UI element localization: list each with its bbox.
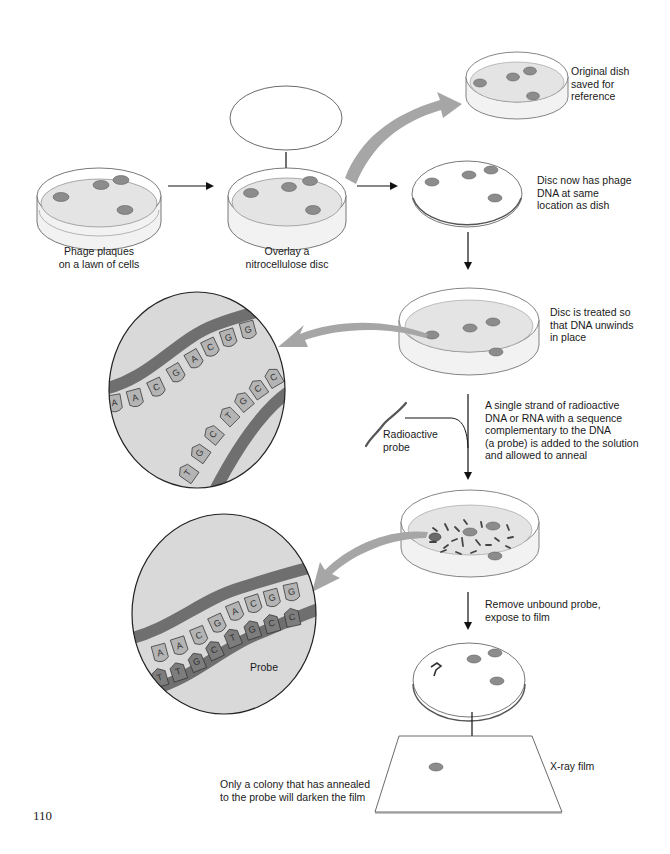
label-probe-added: A single strand of radioactive DNA or RN…	[485, 399, 639, 462]
label-disc-copy: Disc now has phage DNA at same location …	[537, 174, 632, 212]
label-overlay-disc: Overlay a nitrocellulose disc	[232, 245, 342, 270]
petri-dish-overlay	[228, 168, 346, 250]
probe-label: Probe	[250, 661, 278, 673]
magnifier-annealed-probe: AACGACGG TTGCTGCC Probe	[125, 514, 330, 714]
petri-dish-original	[466, 52, 568, 119]
disc-after-wash	[413, 643, 525, 721]
label-radioactive-probe: Radioactive probe	[383, 428, 438, 453]
label-xray-film: X-ray film	[550, 760, 594, 773]
magnifier-unwound-dna: AACGACGG TGCTGCC	[100, 292, 300, 500]
label-remove-unbound: Remove unbound probe, expose to film	[485, 598, 601, 623]
label-result: Only a colony that has annealed to the p…	[220, 778, 370, 803]
page-number: 110	[33, 808, 52, 824]
nitrocellulose-disc	[230, 86, 342, 150]
disc-with-phage-dna	[412, 161, 522, 227]
label-phage-plaques: Phage plaques on a lawn of cells	[52, 245, 146, 270]
label-disc-treated: Disc is treated so that DNA unwinds in p…	[550, 306, 633, 344]
label-original-dish: Original dish saved for reference	[571, 65, 629, 103]
xray-film	[375, 736, 562, 813]
petri-dish-plaques	[37, 168, 161, 250]
